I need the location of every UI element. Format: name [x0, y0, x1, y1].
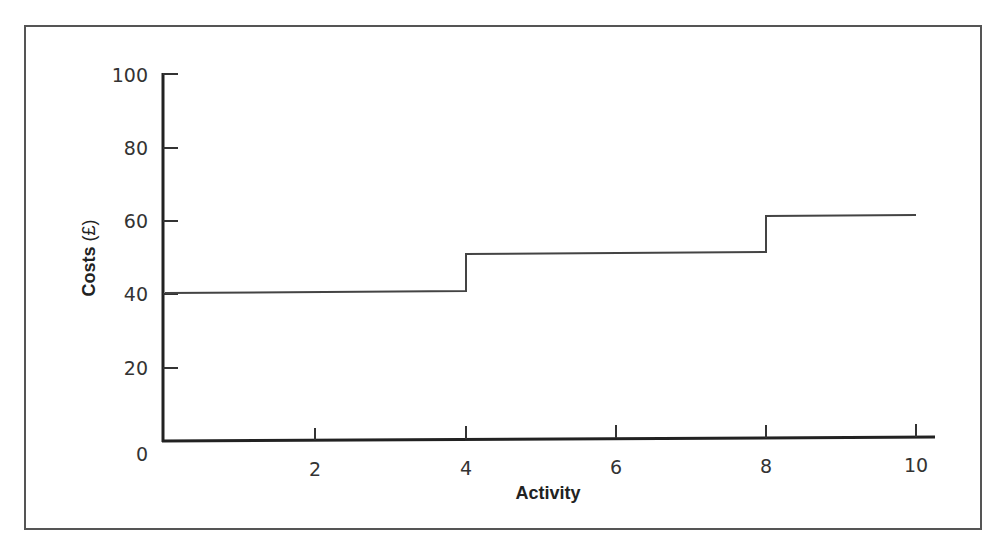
y-tick-label-40: 40: [124, 283, 148, 305]
y-ticks: [163, 74, 178, 368]
x-tick-label-6: 6: [610, 456, 622, 478]
x-tick-label-2: 2: [309, 458, 321, 480]
y-axis-title: Costs(£): [79, 219, 99, 296]
x-tick-label-10: 10: [904, 454, 928, 476]
y-axis-unit: (£): [79, 219, 99, 241]
step-cost-line: [165, 215, 916, 293]
y-axis-title-text: Costs: [79, 246, 99, 296]
x-tick-label-8: 8: [760, 455, 772, 477]
y-tick-label-20: 20: [124, 357, 148, 379]
y-tick-label-100: 100: [112, 64, 148, 86]
x-tick-label-4: 4: [460, 457, 472, 479]
x-axis: [162, 437, 935, 441]
chart-canvas: 100 80 60 40 20 0 2 4 6 8 10 Activity Co…: [0, 0, 1002, 557]
y-tick-label-80: 80: [124, 137, 148, 159]
y-tick-label-60: 60: [124, 210, 148, 232]
x-axis-title: Activity: [515, 483, 580, 503]
y-tick-label-0: 0: [136, 443, 148, 465]
